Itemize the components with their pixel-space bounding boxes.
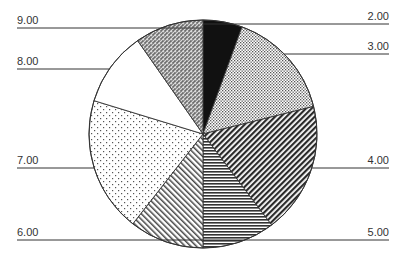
slice-label-6-00: 6.00: [17, 226, 38, 238]
slice-label-3-00: 3.00: [368, 40, 389, 52]
slice-label-8-00: 8.00: [17, 55, 38, 67]
slice-label-7-00: 7.00: [17, 154, 38, 166]
slice-label-2-00: 2.00: [368, 10, 389, 22]
pie-slices: [89, 20, 317, 248]
slice-label-9-00: 9.00: [17, 14, 38, 26]
pie-chart: 2.003.004.005.006.007.008.009.00: [0, 0, 405, 255]
slice-label-5-00: 5.00: [368, 226, 389, 238]
slice-label-4-00: 4.00: [368, 154, 389, 166]
